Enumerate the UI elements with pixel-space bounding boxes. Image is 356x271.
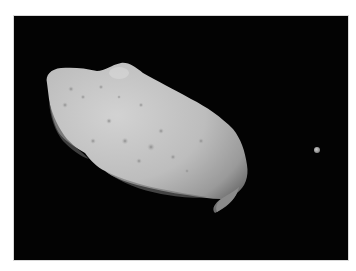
asteroid-scene [1, 1, 356, 271]
moon [314, 147, 320, 153]
space-photo [13, 15, 349, 261]
asteroid [47, 63, 248, 213]
